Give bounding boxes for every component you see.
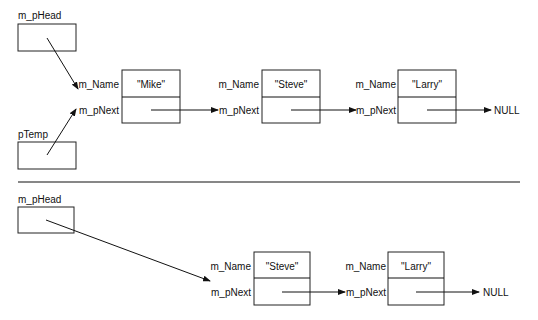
node-next-label: m_pNext (356, 105, 396, 116)
top-head-label: m_pHead (18, 10, 61, 21)
top-head-pointer-box (18, 24, 76, 51)
node-next-label: m_pNext (79, 105, 119, 116)
node-next-label: m_pNext (346, 287, 386, 298)
temp-pointer-box (18, 142, 76, 169)
node-mike: m_Name m_pNext "Mike" (78, 70, 218, 123)
node-name-label: m_Name (210, 261, 251, 272)
node-larry: m_Name m_pNext "Larry" NULL (355, 70, 520, 123)
node-steve-bottom: m_Name m_pNext "Steve" (210, 252, 345, 305)
null-label: NULL (483, 287, 509, 298)
node-steve: m_Name m_pNext "Steve" (218, 70, 356, 123)
bottom-head-label: m_pHead (18, 194, 61, 205)
head-to-steve-arrow (46, 220, 210, 281)
node-next-label: m_pNext (219, 105, 259, 116)
temp-label: pTemp (18, 129, 48, 140)
node-value: "Larry" (412, 79, 442, 90)
linked-list-diagram: m_pHead pTemp m_Name m_pNext "Mike" m_Na… (0, 0, 538, 320)
node-larry-bottom: m_Name m_pNext "Larry" NULL (345, 252, 509, 305)
node-name-label: m_Name (355, 79, 396, 90)
top-section: m_pHead pTemp m_Name m_pNext "Mike" m_Na… (18, 10, 520, 169)
node-value: "Steve" (275, 79, 308, 90)
node-value: "Mike" (137, 79, 166, 90)
node-value: "Steve" (266, 261, 299, 272)
null-label: NULL (494, 105, 520, 116)
node-next-label: m_pNext (211, 287, 251, 298)
node-value: "Larry" (401, 261, 431, 272)
node-name-label: m_Name (218, 79, 259, 90)
bottom-section: m_pHead m_Name m_pNext "Steve" m_Name m_… (18, 194, 509, 305)
node-name-label: m_Name (345, 261, 386, 272)
node-name-label: m_Name (78, 79, 119, 90)
